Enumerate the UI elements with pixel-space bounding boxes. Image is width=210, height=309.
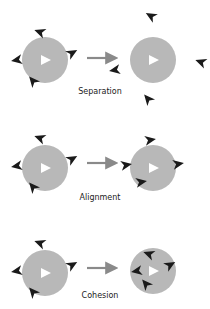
neighbor-boid-icon [143, 9, 158, 23]
panel-separation: Separation [10, 9, 207, 106]
neighbor-boid-icon [10, 54, 23, 66]
neighbor-boid-icon [33, 236, 47, 249]
boids-rules-diagram: SeparationAlignmentCohesion [0, 0, 210, 309]
after-state [130, 247, 178, 294]
neighbor-boid-icon [108, 64, 121, 76]
rule-label: Alignment [80, 193, 121, 202]
neighbor-boid-icon [144, 134, 157, 146]
neighbor-boid-icon [194, 55, 208, 68]
before-state [10, 131, 79, 194]
neighbor-boid-icon [10, 265, 23, 277]
panel-cohesion: Cohesion [10, 236, 177, 300]
neighbor-boid-icon [140, 91, 155, 106]
before-state [10, 25, 79, 88]
neighbor-boid-icon [33, 131, 47, 144]
panel-alignment: Alignment [10, 131, 185, 202]
neighbor-boid-icon [33, 25, 47, 38]
before-state [10, 236, 79, 299]
after-state [120, 134, 185, 191]
neighbor-boid-icon [10, 160, 23, 172]
after-state [108, 9, 207, 106]
rule-label: Cohesion [82, 291, 119, 300]
rule-label: Separation [78, 87, 122, 96]
